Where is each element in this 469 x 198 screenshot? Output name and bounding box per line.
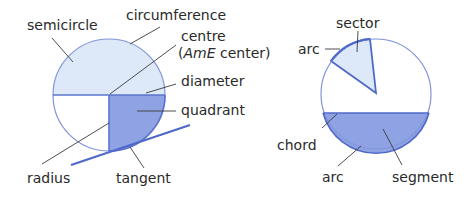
label-centre-amE: (AmE center) [178, 45, 271, 61]
radius-leader [42, 123, 109, 164]
label-quadrant: quadrant [181, 102, 245, 118]
right-circle-figure: sector arc chord arc segment [277, 15, 454, 185]
semicircle-leader [52, 38, 73, 62]
label-segment: segment [392, 169, 454, 185]
tangent-leader [130, 147, 144, 168]
label-centre: centre [181, 28, 226, 44]
label-semicircle: semicircle [27, 17, 98, 33]
label-chord: chord [277, 137, 317, 153]
label-radius: radius [27, 170, 70, 186]
label-arc-bottom: arc [322, 169, 344, 185]
label-centre-amE-suffix: center) [216, 45, 271, 61]
sector-shape [331, 39, 376, 93]
arc-bottom-leader [338, 146, 361, 166]
label-arc-top: arc [298, 41, 320, 57]
circumference-leader [130, 27, 160, 44]
circle-parts-diagram: semicircle circumference centre (AmE cen… [0, 0, 469, 198]
label-sector: sector [336, 15, 380, 31]
label-centre-amE-italic: AmE [182, 45, 215, 61]
label-tangent: tangent [116, 170, 171, 186]
semicircle-shape [53, 39, 165, 95]
segment-shape [323, 113, 429, 153]
label-circumference: circumference [126, 7, 226, 23]
label-diameter: diameter [181, 73, 245, 89]
left-circle-figure: semicircle circumference centre (AmE cen… [27, 7, 271, 186]
